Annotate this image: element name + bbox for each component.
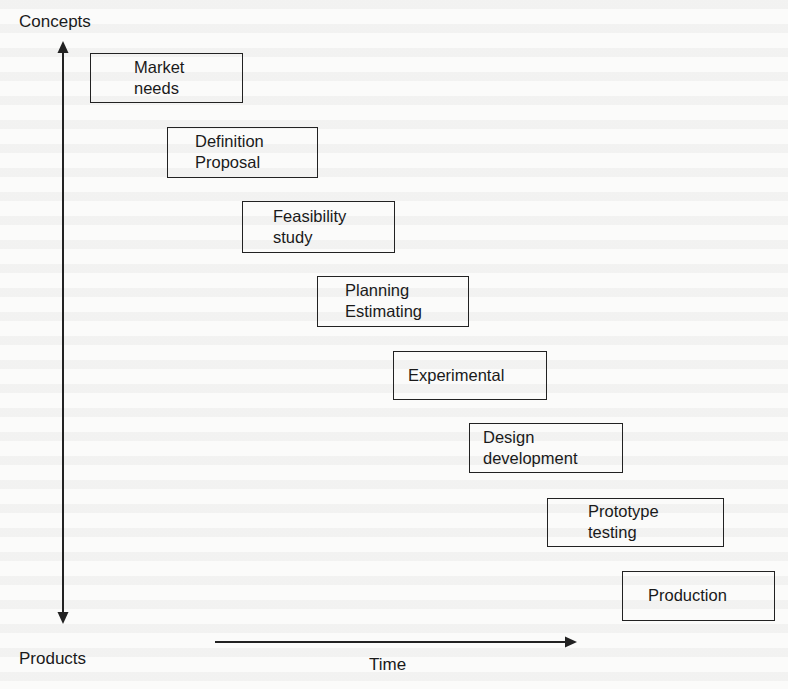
stage-feasibility-study: Feasibility study [242,201,395,253]
axis-label-products: Products [19,649,86,669]
stage-label-line: Experimental [408,365,504,386]
stage-prototype-testing: Prototype testing [547,498,724,547]
stage-production: Production [622,571,775,621]
stage-planning-estimating: Planning Estimating [317,276,469,327]
stage-label-line: Design [483,427,534,448]
stage-label-line: study [273,227,312,248]
stage-label-line: Prototype [588,501,659,522]
stage-design-development: Design development [469,423,623,473]
stage-label-line: Production [648,585,727,606]
stage-definition-proposal: Definition Proposal [167,127,318,178]
stage-label-line: testing [588,522,637,543]
axis-label-time: Time [369,655,406,675]
stage-label-line: Estimating [345,301,422,322]
stage-label-line: development [483,448,577,469]
axis-label-concepts: Concepts [19,12,91,32]
stage-experimental: Experimental [393,351,547,400]
stage-label-line: Proposal [195,152,260,173]
stage-label-line: Planning [345,280,409,301]
stage-label-line: Market [134,57,184,78]
vertical-axis-arrow [58,41,69,624]
stage-label-line: needs [134,78,179,99]
time-axis-arrow [215,637,577,648]
stage-market-needs: Market needs [90,53,243,103]
stage-label-line: Feasibility [273,206,346,227]
stage-label-line: Definition [195,131,264,152]
